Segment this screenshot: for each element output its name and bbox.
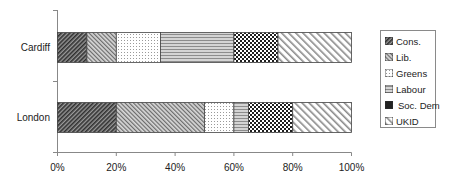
x-tick-label: 80%: [283, 162, 303, 173]
bar-segment: [249, 103, 293, 133]
bar-segment: [205, 103, 234, 133]
swatch-wave-icon: [385, 85, 393, 93]
legend-label: Greens: [396, 68, 427, 79]
legend-label: Lib.: [396, 52, 411, 63]
bar-segment: [116, 103, 204, 133]
bar-segment: [160, 33, 234, 63]
swatch-checker-icon: [385, 101, 393, 109]
bar-segment: [278, 33, 352, 63]
legend-label: UKID: [396, 116, 419, 127]
bar-segment: [58, 33, 87, 63]
category-label: Cardiff: [21, 42, 50, 53]
swatch-dots-icon: [385, 69, 393, 77]
bar-segment: [87, 33, 116, 63]
legend-item-labour: Labour: [385, 83, 426, 95]
swatch-wide-diagonal-icon: [385, 117, 393, 125]
x-tick-label: 60%: [224, 162, 244, 173]
legend-item-ukid: UKID: [385, 115, 419, 127]
x-tick-label: 20%: [106, 162, 126, 173]
bar-segment: [234, 103, 249, 133]
x-tick-label: 0%: [50, 162, 65, 173]
legend-item-greens: Greens: [385, 67, 427, 79]
legend: Cons. Lib. Greens Labour Soc. Dem UKID: [380, 30, 436, 128]
x-tick-label: 100%: [339, 162, 365, 173]
legend-item-socdem: Soc. Dem: [385, 99, 440, 111]
swatch-diagonal-icon: [385, 53, 393, 61]
bar-segment: [116, 33, 160, 63]
legend-label: Cons.: [396, 36, 421, 47]
category-labels: CardiffLondon: [17, 42, 51, 123]
bars: [58, 33, 352, 133]
swatch-dense-diagonal-icon: [385, 37, 393, 45]
legend-label: Soc. Dem: [398, 100, 440, 111]
bar-segment: [234, 33, 278, 63]
legend-item-lib: Lib.: [385, 51, 411, 63]
legend-item-cons: Cons.: [385, 35, 421, 47]
legend-label: Labour: [396, 84, 426, 95]
category-label: London: [17, 112, 50, 123]
x-axis-ticks: 0%20%40%60%80%100%: [50, 153, 364, 174]
x-tick-label: 40%: [165, 162, 185, 173]
bar-segment: [293, 103, 352, 133]
bar-segment: [58, 103, 117, 133]
